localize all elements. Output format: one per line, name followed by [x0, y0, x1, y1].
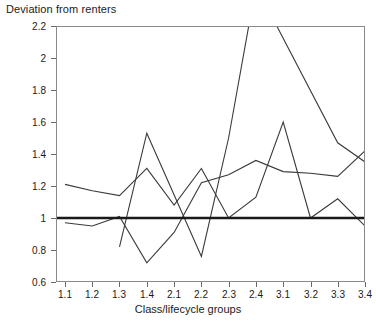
series-lines — [57, 0, 365, 263]
line-series-2 — [65, 151, 365, 263]
series-layer — [0, 0, 376, 325]
chart-root: Deviation from renters 2.2 2 1.8 1.6 1.4… — [0, 0, 376, 325]
